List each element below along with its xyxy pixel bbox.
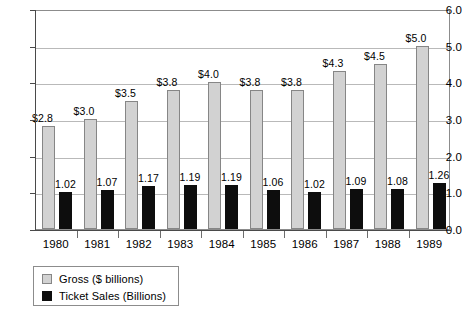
- x-axis-category-label: 1988: [367, 238, 409, 250]
- bar-gross[interactable]: [208, 82, 221, 229]
- legend-item-gross: Gross ($ billions): [42, 271, 178, 286]
- y-axis-line: [35, 10, 36, 231]
- bar-gross[interactable]: [125, 101, 138, 229]
- chart-legend: Gross ($ billions) Ticket Sales (Billion…: [33, 266, 179, 306]
- y-axis-tick-mark: [30, 120, 35, 121]
- bar-value-label-gross: $4.0: [196, 68, 221, 80]
- bar-group: $3.81.02: [285, 11, 327, 229]
- legend-label-ticket-sales: Ticket Sales (Billions): [59, 290, 166, 302]
- bar-ticket-sales[interactable]: [391, 189, 404, 229]
- y-axis-tick-mark: [30, 230, 35, 231]
- y-axis-tick-label: 4.0: [432, 77, 462, 89]
- x-axis-tick-separator: [367, 231, 368, 238]
- x-axis-tick-separator: [160, 231, 161, 238]
- bar-gross[interactable]: [167, 90, 180, 229]
- bar-value-label-gross: $4.5: [362, 50, 387, 62]
- y-axis-tick-label: 3.0: [432, 114, 462, 126]
- chart-screenshot: $2.81.02$3.01.07$3.51.17$3.81.19$4.01.19…: [0, 0, 462, 315]
- bar-ticket-sales[interactable]: [184, 185, 197, 229]
- bar-group: $3.51.17: [119, 11, 161, 229]
- bar-ticket-sales[interactable]: [308, 192, 321, 229]
- x-axis-tick-separator: [201, 231, 202, 238]
- bar-ticket-sales[interactable]: [101, 190, 114, 229]
- plot-area: $2.81.02$3.01.07$3.51.17$3.81.19$4.01.19…: [35, 10, 450, 230]
- x-axis-category-label: 1981: [77, 238, 119, 250]
- y-axis-tick-mark: [30, 157, 35, 158]
- x-axis-category-label: 1984: [201, 238, 243, 250]
- bar-gross[interactable]: [374, 64, 387, 229]
- x-axis-category-label: 1986: [284, 238, 326, 250]
- y-axis-tick-label: 5.0: [432, 41, 462, 53]
- bar-ticket-sales[interactable]: [350, 189, 363, 229]
- x-axis-tick-separator: [284, 231, 285, 238]
- x-axis-tick-separator: [409, 231, 410, 238]
- bar-gross[interactable]: [291, 90, 304, 229]
- bar-gross[interactable]: [333, 71, 346, 229]
- bar-gross[interactable]: [416, 46, 429, 229]
- y-axis-tick-label: 0.0: [432, 224, 462, 236]
- legend-item-ticket-sales: Ticket Sales (Billions): [42, 288, 178, 303]
- legend-swatch-gross-icon: [42, 274, 52, 284]
- bar-value-label-gross: $3.8: [155, 76, 180, 88]
- y-axis-tick-label: 2.0: [432, 151, 462, 163]
- bar-ticket-sales[interactable]: [267, 190, 280, 229]
- x-axis-tick-separator: [243, 231, 244, 238]
- bar-group: $2.81.02: [36, 11, 78, 229]
- x-axis-tick-separator: [118, 231, 119, 238]
- legend-label-gross: Gross ($ billions): [59, 273, 143, 285]
- x-axis-category-label: 1980: [35, 238, 77, 250]
- y-axis-tick-mark: [30, 83, 35, 84]
- x-axis-category-label: 1989: [409, 238, 451, 250]
- bar-gross[interactable]: [250, 90, 263, 229]
- bar-group: $4.51.08: [368, 11, 410, 229]
- y-axis-tick-mark: [30, 193, 35, 194]
- x-axis-tick-separator: [326, 231, 327, 238]
- bar-value-label-gross: $3.0: [72, 105, 97, 117]
- bar-value-label-gross: $4.3: [321, 57, 346, 69]
- x-axis-tick-separator: [77, 231, 78, 238]
- legend-swatch-ticket-sales-icon: [42, 291, 52, 301]
- bar-ticket-sales[interactable]: [59, 192, 72, 229]
- y-axis-tick-mark: [30, 47, 35, 48]
- bar-gross[interactable]: [84, 119, 97, 229]
- bar-group: $3.81.06: [244, 11, 286, 229]
- bar-value-label-gross: $3.8: [238, 76, 263, 88]
- bar-value-label-gross: $2.8: [30, 112, 55, 124]
- bar-group: $4.31.09: [327, 11, 369, 229]
- bar-ticket-sales[interactable]: [142, 186, 155, 229]
- bar-value-label-gross: $5.0: [404, 32, 429, 44]
- bar-value-label-gross: $3.8: [279, 76, 304, 88]
- bar-group: $4.01.19: [202, 11, 244, 229]
- x-axis-category-label: 1987: [326, 238, 368, 250]
- y-axis-tick-mark: [30, 10, 35, 11]
- bar-value-label-ticket-sales: 1.26: [421, 169, 458, 181]
- bar-group: $3.01.07: [78, 11, 120, 229]
- x-axis-category-label: 1985: [243, 238, 285, 250]
- y-axis-tick-label: 6.0: [432, 4, 462, 16]
- bar-value-label-gross: $3.5: [113, 87, 138, 99]
- bar-ticket-sales[interactable]: [225, 185, 238, 229]
- bar-group: $3.81.19: [161, 11, 203, 229]
- x-axis-category-label: 1983: [160, 238, 202, 250]
- y-axis-tick-label: 1.0: [432, 187, 462, 199]
- x-axis-category-label: 1982: [118, 238, 160, 250]
